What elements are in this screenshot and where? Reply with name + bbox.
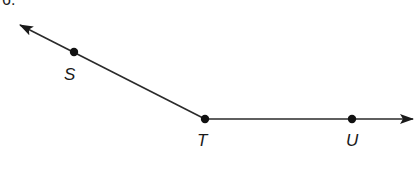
ray-ts (20, 25, 205, 119)
angle-diagram: S T U (0, 0, 416, 174)
point-s (70, 48, 78, 56)
point-t (201, 115, 209, 123)
label-s: S (64, 65, 76, 84)
label-t: T (197, 131, 209, 150)
point-u (348, 115, 356, 123)
label-u: U (346, 131, 359, 150)
